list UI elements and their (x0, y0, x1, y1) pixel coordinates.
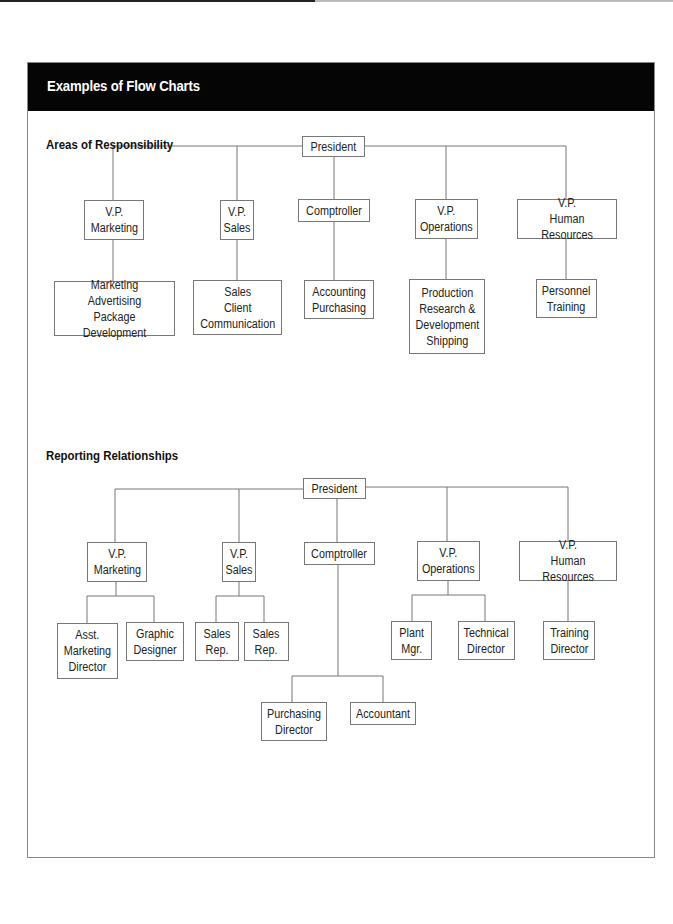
box-label: Training Director (550, 625, 589, 657)
box-label: Comptroller (312, 546, 368, 562)
org-box-president: President (303, 478, 366, 499)
box-label: Technical Director (464, 625, 509, 657)
duties-box-operations: Production Research & Development Shippi… (409, 279, 485, 354)
org-box-comptroller: Comptroller (298, 199, 370, 222)
box-label: Asst. Marketing Director (64, 627, 111, 675)
box-label: Personnel Training (542, 283, 591, 315)
report-box-technical-director: Technical Director (458, 621, 515, 660)
box-label: V.P. Sales (223, 204, 250, 236)
box-label: Production Research & Development Shippi… (415, 285, 479, 349)
org-box-president: President (302, 136, 365, 157)
duties-box-sales: Sales Client Communication (193, 280, 282, 335)
org-box-vp-human-resources: V.P. Human Resources (519, 541, 617, 581)
box-label: V.P. Human Resources (525, 537, 611, 585)
box-label: Graphic Designer (133, 626, 176, 658)
box-label: Sales Client Communication (200, 284, 275, 332)
box-label: President (311, 139, 357, 155)
org-box-vp-human-resources: V.P. Human Resources (517, 199, 617, 239)
report-box-plant-mgr: Plant Mgr. (391, 621, 432, 660)
org-box-vp-marketing: V.P. Marketing (84, 200, 144, 240)
duties-box-marketing: Marketing Advertising Package Developmen… (54, 281, 175, 336)
box-label: President (312, 481, 358, 497)
box-label: V.P. Marketing (90, 204, 137, 236)
box-label: Sales Rep. (203, 626, 230, 658)
section-title-reporting: Reporting Relationships (46, 448, 178, 463)
box-label: Plant Mgr. (399, 625, 424, 657)
report-box-asst-marketing-director: Asst. Marketing Director (57, 623, 118, 679)
duties-box-human-resources: Personnel Training (536, 279, 597, 318)
section-title-areas: Areas of Responsibility (46, 137, 173, 152)
org-box-vp-sales: V.P. Sales (222, 542, 256, 582)
box-label: V.P. Human Resources (523, 195, 611, 243)
box-label: Comptroller (306, 203, 362, 219)
box-label: V.P. Operations (422, 545, 475, 577)
box-label: V.P. Marketing (93, 546, 140, 578)
duties-box-comptroller: Accounting Purchasing (304, 280, 374, 319)
box-label: Marketing Advertising Package Developmen… (61, 277, 168, 341)
box-label: V.P. Sales (225, 546, 252, 578)
org-box-vp-operations: V.P. Operations (415, 199, 478, 239)
box-label: V.P. Operations (420, 203, 473, 235)
box-label: Accounting Purchasing (312, 284, 366, 316)
org-box-vp-operations: V.P. Operations (417, 541, 480, 581)
box-label: Sales Rep. (253, 626, 280, 658)
report-box-sales-rep-1: Sales Rep. (195, 622, 239, 661)
box-label: Accountant (356, 706, 410, 722)
report-box-sales-rep-2: Sales Rep. (244, 622, 289, 661)
org-box-vp-sales: V.P. Sales (220, 200, 254, 240)
report-box-accountant: Accountant (350, 702, 416, 725)
report-box-purchasing-director: Purchasing Director (261, 702, 327, 741)
report-box-training-director: Training Director (543, 621, 595, 660)
org-box-vp-marketing: V.P. Marketing (87, 542, 147, 582)
org-box-comptroller: Comptroller (304, 542, 375, 565)
report-box-graphic-designer: Graphic Designer (126, 622, 184, 661)
box-label: Purchasing Director (267, 706, 321, 738)
